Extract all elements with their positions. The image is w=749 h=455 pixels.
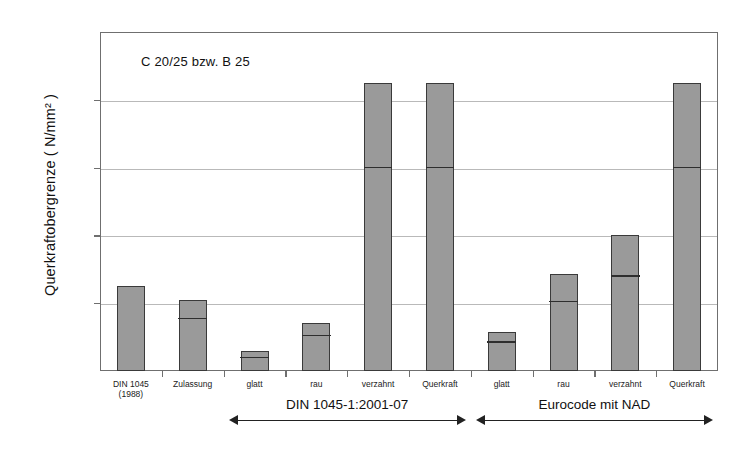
x-category-label: verzahnt <box>594 379 656 389</box>
bar <box>241 351 269 371</box>
arrow-left-head-icon <box>476 415 485 425</box>
x-category-label: DIN 1045(1988) <box>100 379 162 399</box>
bar <box>426 83 454 371</box>
group-range-arrow <box>476 414 713 426</box>
bar-segment-divider <box>487 341 516 343</box>
bar <box>611 235 639 371</box>
bar-segment-divider <box>673 167 702 169</box>
x-tick-mark <box>409 371 410 377</box>
x-category-label: glatt <box>224 379 286 389</box>
bar-series <box>100 32 718 371</box>
bar-segment-divider <box>364 167 393 169</box>
bar-segment-divider <box>240 357 269 359</box>
group-label: Eurocode mit NAD <box>476 397 713 412</box>
bar <box>302 323 330 371</box>
x-category-label: Querkraft <box>409 379 471 389</box>
x-category-label: Querkraft <box>656 379 718 389</box>
bar-segment-divider <box>302 335 331 337</box>
bar <box>179 300 207 371</box>
arrow-right-head-icon <box>704 415 713 425</box>
bar-segment-divider <box>611 275 640 277</box>
x-category-label: glatt <box>471 379 533 389</box>
x-tick-mark <box>594 371 595 377</box>
arrow-right-head-icon <box>457 415 466 425</box>
x-category-label: Zulassung <box>162 379 224 389</box>
bar <box>488 332 516 371</box>
bar-segment-divider <box>549 301 578 303</box>
y-axis-title: Querkraftobergrenze ( N/mm² ) <box>42 35 58 355</box>
bar <box>673 83 701 371</box>
arrow-shaft <box>235 420 460 421</box>
bar <box>117 286 145 371</box>
group-range-arrow <box>229 414 466 426</box>
x-category-label: rau <box>285 379 347 389</box>
bar <box>550 274 578 371</box>
x-category-label: rau <box>533 379 595 389</box>
group-label: DIN 1045-1:2001-07 <box>229 397 466 412</box>
x-tick-mark <box>656 371 657 377</box>
arrow-left-head-icon <box>229 415 238 425</box>
x-tick-mark <box>285 371 286 377</box>
x-tick-mark <box>347 371 348 377</box>
arrow-shaft <box>482 420 707 421</box>
x-category-label: verzahnt <box>347 379 409 389</box>
x-tick-mark <box>533 371 534 377</box>
chart-figure: Querkraftobergrenze ( N/mm² ) 10,08,06,0… <box>0 0 749 455</box>
bar-segment-divider <box>178 318 207 320</box>
x-tick-mark <box>471 371 472 377</box>
x-tick-mark <box>224 371 225 377</box>
bar-segment-divider <box>426 167 455 169</box>
bar <box>364 83 392 371</box>
x-tick-mark <box>162 371 163 377</box>
